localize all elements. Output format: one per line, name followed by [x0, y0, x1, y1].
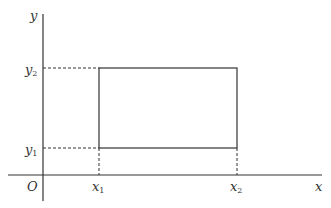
x-axis-label: x — [315, 179, 323, 194]
origin-label: O — [27, 179, 38, 194]
x1-label: x1 — [92, 179, 104, 195]
y1-label: y1 — [24, 142, 37, 158]
rectangle — [99, 68, 237, 148]
y2-label: y2 — [24, 62, 37, 78]
y-axis-label: y — [29, 8, 38, 23]
x2-label: x2 — [230, 179, 242, 195]
coordinate-diagram: y x O y2 y1 x1 x2 — [0, 0, 331, 208]
